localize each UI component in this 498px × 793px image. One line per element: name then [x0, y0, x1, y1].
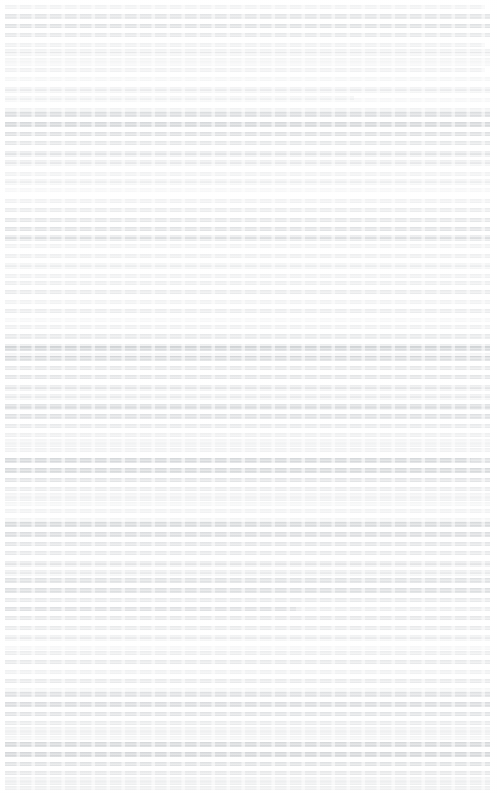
text-line [0, 363, 498, 373]
text-line [0, 110, 498, 120]
smeared-glyph-row [5, 396, 490, 400]
smeared-glyph-row [5, 651, 490, 655]
text-line [0, 648, 498, 658]
text-line [0, 306, 498, 316]
text-line [0, 549, 498, 559]
smeared-glyph-row [5, 208, 490, 212]
text-line [0, 75, 498, 85]
text-line [0, 604, 498, 614]
smeared-glyph-row [5, 468, 490, 473]
text-line [0, 196, 498, 206]
smeared-glyph-row [5, 346, 490, 351]
smeared-glyph-row [5, 448, 490, 452]
smeared-glyph-row [5, 414, 490, 419]
smeared-glyph-row [5, 5, 485, 9]
text-line [0, 186, 498, 196]
text-line [0, 56, 498, 66]
text-line [0, 412, 498, 422]
text-line [0, 690, 498, 700]
text-line [0, 322, 498, 332]
smeared-glyph-row [5, 387, 490, 391]
smeared-glyph-row [5, 300, 490, 304]
smeared-glyph-row [5, 607, 490, 611]
smeared-glyph-row [5, 235, 490, 239]
smeared-glyph-row [5, 551, 490, 555]
smeared-glyph-row [5, 712, 490, 716]
text-line [0, 96, 498, 106]
text-line [0, 176, 498, 186]
text-line [0, 251, 498, 261]
text-line [0, 12, 498, 22]
smeared-glyph-row [5, 244, 490, 248]
text-line [0, 384, 498, 394]
text-line [0, 206, 498, 216]
smeared-glyph-row [5, 478, 490, 482]
text-line [0, 560, 498, 570]
smeared-glyph-row [5, 334, 490, 339]
text-line [0, 232, 498, 242]
text-line [0, 475, 498, 485]
smeared-glyph-row [5, 254, 490, 258]
smeared-glyph-row [5, 679, 490, 683]
smeared-glyph-row [5, 366, 490, 370]
smeared-glyph-row [5, 179, 490, 183]
smeared-glyph-row [5, 49, 490, 53]
paragraph-block [0, 774, 498, 793]
text-line [0, 456, 498, 466]
smeared-glyph-row [5, 563, 490, 567]
text-line [0, 700, 498, 710]
smeared-glyph-row [5, 281, 490, 285]
smeared-glyph-row [5, 404, 490, 409]
text-line [0, 21, 498, 31]
text-line [0, 86, 498, 96]
text-line [0, 120, 498, 130]
smeared-glyph-row [5, 752, 490, 757]
text-line [0, 676, 498, 686]
text-line [0, 421, 498, 431]
smeared-glyph-row [5, 68, 485, 72]
smeared-glyph-row [5, 702, 490, 707]
smeared-glyph-row [5, 375, 490, 379]
text-line [0, 373, 498, 383]
text-line [0, 658, 498, 668]
text-line [0, 634, 498, 644]
text-line [0, 354, 498, 364]
text-line [0, 402, 498, 412]
text-line [0, 740, 498, 750]
text-line [0, 332, 498, 342]
text-line [0, 623, 498, 633]
text-line [0, 709, 498, 719]
smeared-glyph-row [5, 637, 490, 641]
smeared-glyph-row [5, 509, 490, 513]
smeared-glyph-row [5, 532, 490, 537]
text-line [0, 576, 498, 586]
text-line [0, 539, 498, 549]
smeared-glyph-row [5, 112, 490, 117]
smeared-glyph-row [5, 578, 490, 583]
smeared-glyph-row [5, 762, 490, 766]
smeared-glyph-row [5, 777, 490, 781]
text-line [0, 65, 498, 75]
text-line [0, 150, 498, 160]
smeared-glyph-row [5, 522, 490, 527]
text-line [0, 490, 498, 500]
smeared-glyph-row [5, 153, 490, 157]
text-line [0, 262, 498, 272]
smeared-glyph-row [5, 89, 490, 93]
smeared-glyph-row [5, 218, 490, 222]
text-line [0, 446, 498, 456]
text-line [0, 278, 498, 288]
smeared-glyph-row [5, 290, 490, 294]
text-line [0, 288, 498, 298]
text-line [0, 46, 498, 56]
smeared-glyph-row [5, 58, 490, 62]
paragraph-block [0, 176, 498, 195]
text-line [0, 344, 498, 354]
text-line [0, 139, 498, 149]
smeared-glyph-row [5, 122, 490, 127]
text-line [0, 215, 498, 225]
text-line [0, 2, 498, 12]
smeared-glyph-row [5, 439, 490, 443]
text-line [0, 530, 498, 540]
text-line [0, 506, 498, 516]
